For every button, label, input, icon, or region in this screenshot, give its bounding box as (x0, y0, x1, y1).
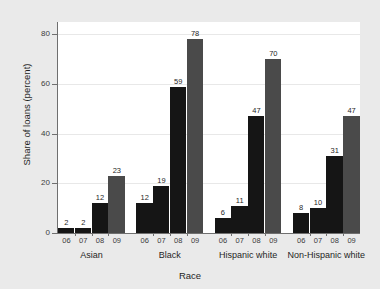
x-axis-title: Race (0, 270, 380, 281)
bar (343, 116, 359, 233)
x-group-label: Non-Hispanic white (279, 250, 374, 260)
bar-value-label: 78 (183, 29, 208, 38)
bar (248, 116, 264, 233)
bar-value-label: 23 (104, 166, 129, 175)
y-tick-mark (52, 233, 57, 234)
gridline (58, 183, 360, 184)
bar (75, 228, 91, 233)
bar (293, 213, 309, 233)
y-tick-mark (52, 84, 57, 85)
y-tick-mark (52, 183, 57, 184)
bar (215, 218, 231, 233)
gridline (58, 134, 360, 135)
bar (170, 87, 186, 233)
y-tick-mark (52, 134, 57, 135)
x-year-label: 09 (262, 236, 285, 245)
gridline (58, 34, 360, 35)
bar-value-label: 47 (339, 106, 364, 115)
y-tick-label: 0 (28, 228, 50, 237)
y-tick-mark (52, 34, 57, 35)
bar (136, 203, 152, 233)
y-axis-title: Share of loans (percent) (21, 20, 32, 210)
bar (265, 59, 281, 233)
bar (187, 39, 203, 233)
bar (310, 208, 326, 233)
gridline (58, 84, 360, 85)
y-axis-line (57, 22, 58, 234)
bar-value-label: 70 (261, 49, 286, 58)
bar (58, 228, 74, 233)
x-axis-line (57, 233, 360, 234)
bar (153, 186, 169, 233)
x-year-label: 09 (340, 236, 363, 245)
bar (108, 176, 124, 233)
bar (92, 203, 108, 233)
x-year-label: 09 (105, 236, 128, 245)
bar-chart-figure: 020406080 Share of loans (percent) 22122… (0, 0, 380, 289)
x-year-label: 09 (184, 236, 207, 245)
bar (326, 156, 342, 233)
bar (231, 206, 247, 233)
